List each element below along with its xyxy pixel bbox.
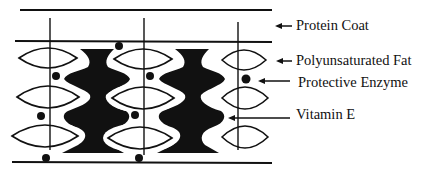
protein-coat-arrowhead-icon (275, 23, 282, 29)
protective-enzyme-dot (131, 111, 139, 119)
protective-enzyme-dot (135, 154, 143, 162)
protective-enzyme-dot (37, 112, 45, 120)
protective-enzyme-dot (242, 75, 251, 84)
polyunsaturated-fat-arrowhead-icon (276, 58, 283, 64)
polyunsaturated-fat-ellipses (7, 44, 273, 153)
label-protein-coat: Protein Coat (296, 18, 369, 33)
vitamin-e-arrowhead-icon (228, 115, 235, 121)
protective-enzyme-dot (115, 42, 123, 50)
label-protective-enzyme: Protective Enzyme (298, 75, 408, 90)
protective-enzyme-dot (146, 72, 154, 80)
label-vitamin-e: Vitamin E (296, 107, 355, 122)
bottom-line (12, 162, 272, 163)
protective-enzyme-dot (42, 154, 50, 162)
protective-enzyme-arrowhead-icon (258, 78, 265, 84)
label-polyunsaturated-fat: Polyunsaturated Fat (296, 53, 412, 68)
protective-enzyme-dot (52, 72, 60, 80)
